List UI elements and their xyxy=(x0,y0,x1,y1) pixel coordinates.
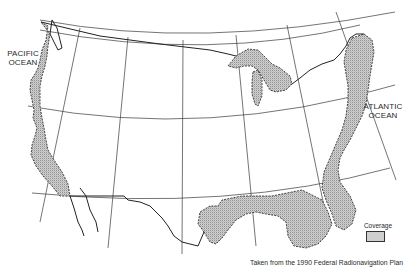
pacific-label-line-2: OCEAN xyxy=(6,58,40,67)
latitude-line xyxy=(28,85,395,119)
longitude-line xyxy=(182,40,183,254)
legend-title: Coverage xyxy=(358,222,398,229)
latitude-line xyxy=(40,12,395,33)
atlantic-label-line-1: ATLANTIC xyxy=(363,102,403,111)
map-canvas xyxy=(0,0,414,270)
southern-border xyxy=(70,196,204,246)
coverage-gulf-coast xyxy=(198,190,332,248)
atlantic-ocean-label: ATLANTIC OCEAN xyxy=(363,102,403,120)
atlantic-label-line-2: OCEAN xyxy=(363,111,403,120)
coverage-areas xyxy=(30,22,374,248)
pacific-label-line-1: PACIFIC xyxy=(6,49,40,58)
source-credit: Taken from the 1990 Federal Radionavigat… xyxy=(250,259,403,266)
baja-coast xyxy=(70,196,84,236)
baja-gulf xyxy=(80,188,98,232)
coverage-lake-michigan xyxy=(252,70,262,106)
northern-border xyxy=(41,22,236,56)
pacific-ocean-label: PACIFIC OCEAN xyxy=(6,49,40,67)
puget-sound xyxy=(50,20,62,50)
legend-coverage-swatch xyxy=(366,231,385,242)
coverage-east-coast xyxy=(322,34,374,230)
longitude-line xyxy=(108,37,128,248)
latitude-line xyxy=(40,25,360,45)
